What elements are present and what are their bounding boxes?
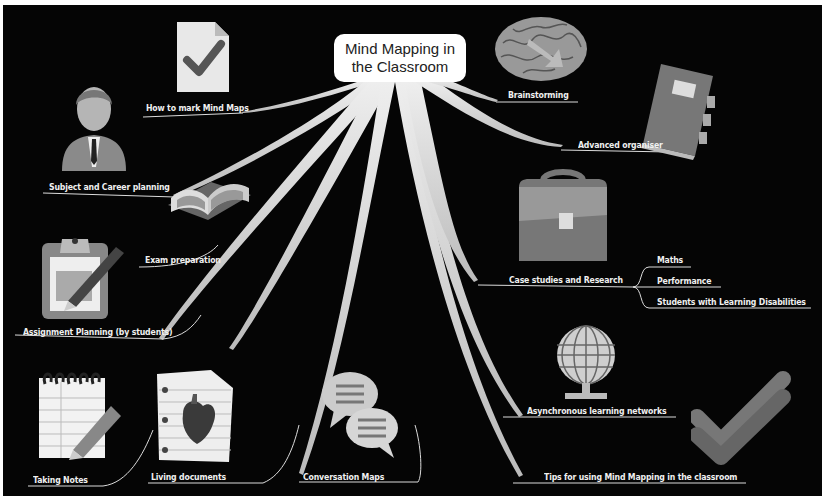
- branch-label-how-to-mark[interactable]: How to mark Mind Maps: [146, 102, 249, 113]
- branch-label-taking-notes[interactable]: Taking Notes: [33, 474, 88, 485]
- branch-label-conversation-maps[interactable]: Conversation Maps: [303, 471, 384, 482]
- checked-document-icon: [175, 20, 231, 94]
- double-check-icon: [691, 365, 791, 465]
- network-globe-icon: [551, 325, 621, 405]
- central-topic[interactable]: Mind Mapping in the Classroom: [334, 34, 466, 82]
- sub-branch-learning-disabilities[interactable]: Students with Learning Disabilities: [657, 296, 806, 307]
- sub-branch-performance[interactable]: Performance: [657, 275, 711, 286]
- branch-label-subject-career[interactable]: Subject and Career planning: [49, 181, 170, 192]
- branch-label-living-documents[interactable]: Living documents: [151, 471, 226, 482]
- brain-icon: [493, 13, 588, 88]
- branch-label-brainstorming[interactable]: Brainstorming: [508, 89, 569, 100]
- speech-bubbles-icon: [320, 370, 400, 460]
- branch-label-exam-prep[interactable]: Exam preparation: [145, 254, 221, 265]
- heart-document-icon: [153, 370, 235, 464]
- mind-map-canvas: Mind Mapping in the Classroom: [3, 5, 822, 496]
- businessman-icon: [58, 75, 130, 173]
- branch-label-async-networks[interactable]: Asynchronous learning networks: [527, 405, 666, 416]
- open-book-icon: [163, 170, 253, 225]
- branch-label-tips[interactable]: Tips for using Mind Mapping in the class…: [544, 471, 737, 482]
- notepad-pencil-icon: [33, 368, 123, 460]
- briefcase-icon: [513, 165, 613, 265]
- central-topic-line1: Mind Mapping in: [345, 40, 455, 58]
- branch-label-case-studies[interactable]: Case studies and Research: [509, 274, 623, 285]
- branch-label-assignment-planning[interactable]: Assignment Planning (by students): [23, 326, 172, 337]
- branch-label-advanced-organiser[interactable]: Advanced organiser: [578, 139, 663, 150]
- sub-branch-maths[interactable]: Maths: [657, 254, 683, 265]
- clipboard-pen-icon: [38, 231, 130, 323]
- central-topic-line2: the Classroom: [352, 58, 449, 76]
